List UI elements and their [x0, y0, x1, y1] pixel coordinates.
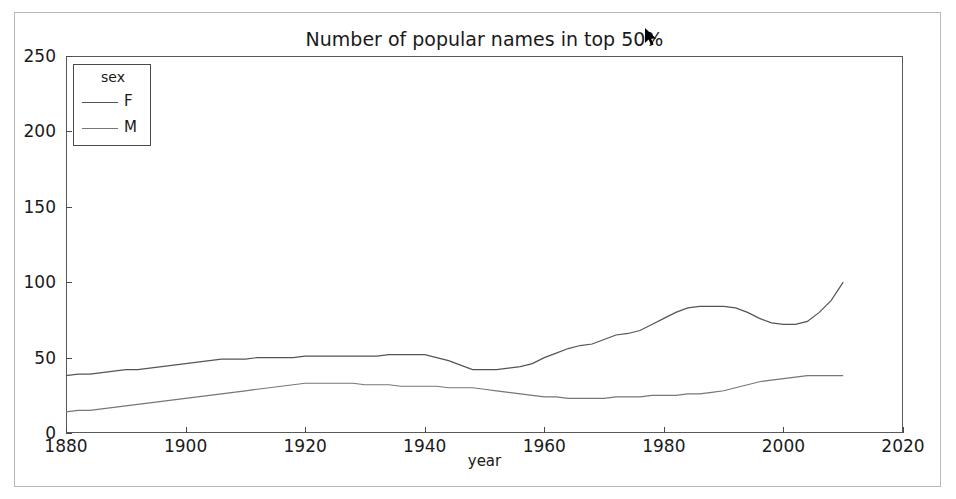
- x-tick-mark: [664, 427, 665, 433]
- y-tick-label: 250: [0, 46, 56, 66]
- x-axis-label: year: [66, 452, 903, 470]
- series-line-f: [66, 282, 843, 376]
- y-tick-label: 50: [0, 348, 56, 368]
- y-tick-label: 150: [0, 197, 56, 217]
- x-tick-mark: [425, 427, 426, 433]
- y-tick-label: 200: [0, 121, 56, 141]
- matplotlib-figure: Number of popular names in top 50% 05010…: [0, 0, 956, 499]
- legend: sex F M: [73, 64, 151, 146]
- y-tick-mark: [66, 131, 72, 132]
- legend-title: sex: [74, 69, 152, 85]
- y-tick-mark: [66, 433, 72, 434]
- x-tick-mark: [305, 427, 306, 433]
- y-tick-mark: [66, 207, 72, 208]
- screenshot-root: Number of popular names in top 50% 05010…: [0, 0, 956, 499]
- y-tick-mark: [66, 56, 72, 57]
- legend-label-f: F: [124, 92, 133, 110]
- x-tick-mark: [66, 427, 67, 433]
- y-tick-mark: [66, 282, 72, 283]
- legend-entry-f: F: [74, 91, 152, 115]
- legend-label-m: M: [124, 118, 137, 136]
- legend-swatch-m: [82, 128, 118, 129]
- x-tick-mark: [186, 427, 187, 433]
- y-tick-label: 100: [0, 272, 56, 292]
- x-tick-mark: [544, 427, 545, 433]
- x-tick-mark: [903, 427, 904, 433]
- legend-entry-m: M: [74, 117, 152, 141]
- series-line-m: [66, 376, 843, 412]
- x-tick-mark: [783, 427, 784, 433]
- y-tick-mark: [66, 358, 72, 359]
- legend-swatch-f: [82, 102, 118, 103]
